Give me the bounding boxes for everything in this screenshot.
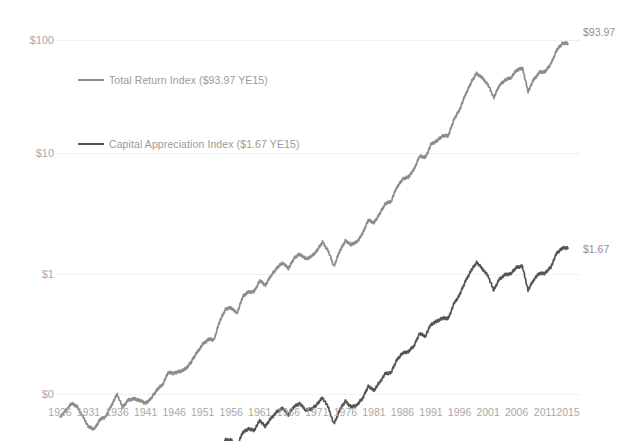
legend-label-total-return: Total Return Index ($93.97 YE15) — [109, 74, 268, 86]
x-tick-label-1976: 1976 — [334, 406, 357, 418]
x-tick-label-2006: 2006 — [505, 406, 528, 418]
legend-item-total-return[interactable]: Total Return Index ($93.97 YE15) — [78, 74, 268, 86]
legend-label-capital-appreciation: Capital Appreciation Index ($1.67 YE15) — [109, 138, 300, 150]
x-tick-label-1941: 1941 — [134, 406, 157, 418]
x-tick-label-1931: 1931 — [77, 406, 100, 418]
x-tick-label-1991: 1991 — [419, 406, 442, 418]
legend-swatch-capital-appreciation — [78, 143, 104, 146]
x-tick-label-1936: 1936 — [105, 406, 128, 418]
x-tick-label-1961: 1961 — [248, 406, 271, 418]
x-tick-label-1981: 1981 — [362, 406, 385, 418]
x-tick-label-1996: 1996 — [448, 406, 471, 418]
legend-swatch-total-return — [78, 79, 104, 82]
x-tick-label-1946: 1946 — [162, 406, 185, 418]
x-tick-label-1986: 1986 — [391, 406, 414, 418]
x-tick-label-1956: 1956 — [220, 406, 243, 418]
legend-item-capital-appreciation[interactable]: Capital Appreciation Index ($1.67 YE15) — [78, 138, 300, 150]
endpoint-label-total-return: $93.97 — [583, 26, 615, 38]
x-tick-label-2015: 2015 — [556, 406, 579, 418]
x-tick-label-1951: 1951 — [191, 406, 214, 418]
x-tick-label-1966: 1966 — [277, 406, 300, 418]
endpoint-label-capital-appreciation: $1.67 — [583, 243, 609, 255]
x-tick-label-1971: 1971 — [305, 406, 328, 418]
chart-container: $100 $10 $1 $0 1926193119361941194619511… — [0, 0, 638, 441]
x-tick-label-2011: 2011 — [534, 406, 557, 418]
series-line-total-return — [60, 42, 568, 430]
x-tick-label-2001: 2001 — [476, 406, 499, 418]
plot-area — [0, 0, 638, 441]
x-tick-label-1926: 1926 — [48, 406, 71, 418]
